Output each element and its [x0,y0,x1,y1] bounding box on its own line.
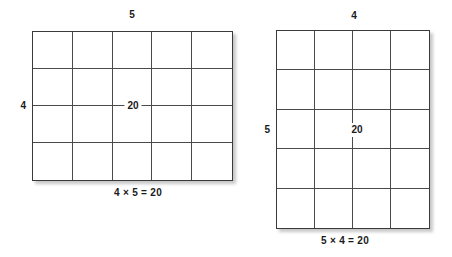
array-cell [33,32,73,69]
array-cell [353,189,391,228]
array-cell [73,32,113,69]
array-cell [73,106,113,143]
array-right-equation: 5 × 4 = 20 [321,236,369,246]
array-cell [152,143,192,180]
array-cell [192,143,232,180]
array-cell [315,110,353,149]
array-cell [113,32,153,69]
array-left-width-label: 5 [129,10,135,20]
array-cell [152,32,192,69]
array-cell [277,70,315,109]
array-cell [152,69,192,106]
array-cell [391,31,429,70]
array-cell [353,149,391,188]
array-cell [353,31,391,70]
array-right-total: 20 [348,123,365,137]
array-cell [73,69,113,106]
array-cell [315,70,353,109]
array-cell [391,149,429,188]
array-cell [33,106,73,143]
array-cell [391,189,429,228]
array-cell [353,70,391,109]
array-cell [315,149,353,188]
array-cell [277,149,315,188]
array-cell [73,143,113,180]
array-cell [315,189,353,228]
array-left-height-label: 4 [12,101,26,111]
array-cell [192,32,232,69]
array-cell [277,110,315,149]
array-cell [33,143,73,180]
array-cell [113,143,153,180]
array-cell [192,69,232,106]
array-cell [391,110,429,149]
array-left-equation: 4 × 5 = 20 [114,188,162,198]
array-cell [152,106,192,143]
array-cell [33,69,73,106]
array-right-height-label: 5 [256,125,270,135]
array-cell [277,189,315,228]
array-cell [277,31,315,70]
array-cell [391,70,429,109]
array-left-total: 20 [124,99,141,113]
array-right-width-label: 4 [351,11,357,21]
array-cell [192,106,232,143]
array-cell [315,31,353,70]
